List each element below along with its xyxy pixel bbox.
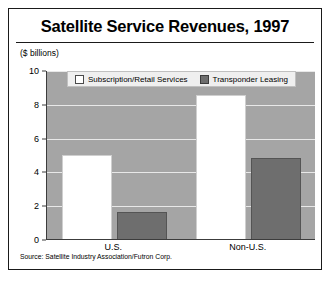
y-axis-units-label: ($ billions) <box>20 48 59 58</box>
legend-label: Transponder Leasing <box>213 75 288 84</box>
bar-non-u-s-subscription-retail <box>196 95 246 239</box>
y-axis-tick-mark <box>42 172 46 173</box>
y-axis-tick-mark <box>42 138 46 139</box>
gridline <box>47 105 315 106</box>
legend-label: Subscription/Retail Services <box>88 75 188 84</box>
x-axis-category-label: Non-U.S. <box>181 242 316 252</box>
bar-u-s-subscription-retail <box>62 155 112 240</box>
legend-entry: Subscription/Retail Services <box>75 75 188 84</box>
y-axis-tick-label: 8 <box>17 100 39 110</box>
y-axis-tick-label: 10 <box>17 66 39 76</box>
title-divider <box>16 42 314 43</box>
chart-legend: Subscription/Retail ServicesTransponder … <box>67 71 296 87</box>
legend-entry: Transponder Leasing <box>200 75 288 84</box>
y-axis-tick-label: 2 <box>17 201 39 211</box>
y-axis-tick-label: 4 <box>17 167 39 177</box>
legend-swatch-icon <box>75 75 84 84</box>
x-axis-category-label: U.S. <box>46 242 181 252</box>
source-note: Source: Satellite Industry Association/F… <box>20 253 172 260</box>
y-axis-tick-mark <box>42 206 46 207</box>
bar-u-s-transponder-leasing <box>117 212 167 239</box>
chart-figure: Satellite Service Revenues, 1997 ($ bill… <box>8 8 322 270</box>
plot-area <box>46 71 315 240</box>
chart-title: Satellite Service Revenues, 1997 <box>9 17 321 36</box>
y-axis-tick-label: 0 <box>17 235 39 245</box>
y-axis-tick-mark <box>42 71 46 72</box>
y-axis-tick-label: 6 <box>17 134 39 144</box>
bar-non-u-s-transponder-leasing <box>251 158 301 239</box>
y-axis-tick-mark <box>42 104 46 105</box>
gridline <box>47 139 315 140</box>
legend-swatch-icon <box>200 75 209 84</box>
y-axis-tick-mark <box>42 240 46 241</box>
